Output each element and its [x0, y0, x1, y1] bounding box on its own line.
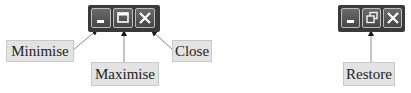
window-controls-normal [88, 5, 160, 32]
minimise-icon [342, 9, 360, 27]
close-button[interactable] [135, 8, 155, 28]
minimise-icon [92, 9, 110, 27]
maximise-label: Maximise [91, 62, 159, 86]
minimise-button[interactable] [91, 8, 111, 28]
close-label: Close [172, 40, 212, 62]
minimise-button[interactable] [341, 8, 360, 28]
maximise-icon [114, 9, 132, 27]
close-icon [136, 9, 154, 27]
close-icon [384, 9, 402, 27]
minimise-label: Minimise [6, 40, 74, 62]
restore-label: Restore [343, 62, 395, 86]
restore-button[interactable] [362, 8, 381, 28]
window-controls-maximised [338, 5, 405, 32]
maximise-button[interactable] [113, 8, 133, 28]
close-button[interactable] [383, 8, 402, 28]
restore-icon [363, 9, 381, 27]
